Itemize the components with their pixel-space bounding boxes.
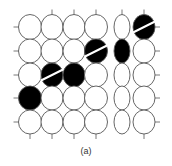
empty-cell	[41, 39, 63, 63]
figure-caption: (a)	[0, 146, 172, 156]
empty-cell	[85, 110, 108, 134]
empty-cell	[114, 15, 130, 40]
empty-cell	[133, 110, 155, 134]
empty-cell	[114, 86, 130, 110]
empty-cell	[19, 63, 42, 87]
empty-cell	[19, 39, 42, 63]
filled-cell	[114, 39, 130, 63]
empty-cell	[133, 63, 155, 87]
empty-cell	[133, 86, 155, 110]
filled-cell	[19, 86, 42, 110]
empty-cell	[133, 39, 155, 63]
empty-cell	[19, 110, 42, 134]
empty-cell	[85, 86, 108, 110]
empty-cell	[63, 110, 85, 134]
empty-cell	[41, 86, 63, 110]
empty-cell	[41, 110, 63, 134]
filled-cell	[63, 63, 85, 87]
empty-cell	[85, 15, 108, 40]
empty-cell	[63, 86, 85, 110]
empty-cell	[63, 15, 85, 40]
empty-cell	[41, 15, 63, 40]
empty-cell	[85, 63, 108, 87]
empty-cell	[63, 39, 85, 63]
empty-cell	[114, 63, 130, 87]
circle-grid-diagram	[0, 0, 172, 166]
empty-cell	[114, 110, 130, 134]
empty-cell	[19, 15, 42, 40]
